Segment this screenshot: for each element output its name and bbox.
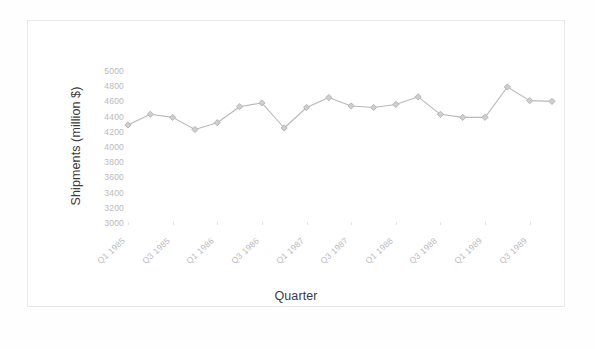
x-tick-label: Q1 1989 bbox=[452, 236, 484, 266]
x-tick-label: Q3 1986 bbox=[229, 236, 261, 266]
x-tick-mark bbox=[262, 222, 263, 225]
line-series-svg bbox=[128, 71, 552, 223]
y-tick-label: 3800 bbox=[104, 157, 124, 167]
y-tick-label: 3600 bbox=[104, 172, 124, 182]
x-tick-mark bbox=[530, 222, 531, 225]
data-point-marker bbox=[326, 95, 332, 101]
x-tick-mark bbox=[128, 222, 129, 225]
x-tick-label: Q3 1985 bbox=[140, 236, 172, 266]
data-point-marker bbox=[348, 103, 354, 109]
x-tick-mark bbox=[217, 222, 218, 225]
data-point-marker bbox=[549, 98, 555, 104]
data-point-marker bbox=[527, 98, 533, 104]
chart-frame: Shipments (million $) 500048004600440042… bbox=[27, 20, 565, 307]
data-line bbox=[128, 87, 552, 130]
y-tick-label: 5000 bbox=[104, 66, 124, 76]
x-tick-mark bbox=[440, 222, 441, 225]
x-axis-title: Quarter bbox=[28, 289, 564, 303]
plot-area: 5000480046004400420040003800360034003200… bbox=[128, 71, 552, 223]
data-point-marker bbox=[192, 126, 198, 132]
x-tick-mark bbox=[351, 222, 352, 225]
data-point-marker bbox=[460, 114, 466, 120]
x-tick-mark bbox=[173, 222, 174, 225]
data-point-marker bbox=[147, 111, 153, 117]
x-tick-label: Q1 1988 bbox=[363, 236, 395, 266]
data-point-marker bbox=[393, 101, 399, 107]
y-tick-label: 4000 bbox=[104, 142, 124, 152]
x-tick-label: Q1 1985 bbox=[95, 236, 127, 266]
y-tick-label: 4400 bbox=[104, 112, 124, 122]
y-axis-title: Shipments (million $) bbox=[69, 51, 83, 241]
y-tick-label: 4600 bbox=[104, 96, 124, 106]
y-tick-label: 4200 bbox=[104, 127, 124, 137]
y-tick-label: 3000 bbox=[104, 218, 124, 228]
x-tick-mark bbox=[485, 222, 486, 225]
data-point-marker bbox=[370, 104, 376, 110]
y-tick-label: 4800 bbox=[104, 81, 124, 91]
x-tick-label: Q1 1987 bbox=[274, 236, 306, 266]
x-tick-label: Q3 1988 bbox=[408, 236, 440, 266]
x-tick-mark bbox=[396, 222, 397, 225]
y-tick-label: 3400 bbox=[104, 188, 124, 198]
x-axis-ticks: Q1 1985Q3 1985Q1 1986Q3 1986Q1 1987Q3 19… bbox=[128, 226, 552, 286]
data-markers bbox=[125, 84, 555, 133]
x-tick-mark bbox=[307, 222, 308, 225]
data-point-marker bbox=[125, 122, 131, 128]
x-tick-label: Q1 1986 bbox=[184, 236, 216, 266]
x-tick-label: Q3 1989 bbox=[497, 236, 529, 266]
y-tick-label: 3200 bbox=[104, 203, 124, 213]
chart-page: Shipments (million $) 500048004600440042… bbox=[0, 0, 595, 349]
data-point-marker bbox=[170, 114, 176, 120]
x-tick-label: Q3 1987 bbox=[318, 236, 350, 266]
